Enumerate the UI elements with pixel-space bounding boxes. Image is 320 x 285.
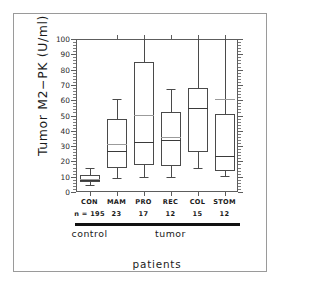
y-axis-minor-tick xyxy=(73,168,76,169)
y-axis-minor-tick xyxy=(73,63,76,64)
y-axis-minor-tick xyxy=(73,73,76,74)
y-axis-minor-tick-right xyxy=(238,174,241,175)
y-axis-minor-tick xyxy=(73,97,76,98)
y-axis-minor-tick xyxy=(73,42,76,43)
y-axis-minor-tick-right xyxy=(238,143,241,144)
x-axis-label-mam: MAM xyxy=(107,198,126,206)
y-axis-tick xyxy=(71,70,76,71)
y-axis-minor-tick xyxy=(73,186,76,187)
y-axis-minor-tick xyxy=(73,51,76,52)
y-axis-tick xyxy=(71,161,76,162)
mean-line xyxy=(215,99,235,100)
y-axis-tick-label: 60 xyxy=(61,96,70,105)
lower-whisker-cap xyxy=(139,177,148,178)
y-axis-minor-tick-right xyxy=(238,171,241,172)
y-axis-minor-tick-right xyxy=(238,82,241,83)
y-axis-minor-tick xyxy=(73,122,76,123)
y-axis-minor-tick-right xyxy=(238,168,241,169)
y-axis-minor-tick-right xyxy=(238,48,241,49)
y-axis-minor-tick-right xyxy=(238,51,241,52)
y-axis-minor-tick xyxy=(73,128,76,129)
y-axis-minor-tick xyxy=(73,143,76,144)
y-axis-minor-tick xyxy=(73,149,76,150)
y-axis-minor-tick xyxy=(73,140,76,141)
sample-size-con: n = 195 xyxy=(74,210,105,218)
y-axis-minor-tick xyxy=(73,45,76,46)
y-axis-minor-tick xyxy=(73,88,76,89)
mean-line xyxy=(134,115,154,116)
y-axis-tick-right xyxy=(238,161,243,162)
x-axis-label-stom: STOM xyxy=(213,198,236,206)
upper-whisker-cap xyxy=(112,99,121,100)
box-plot-mam xyxy=(107,39,127,192)
y-axis-tick xyxy=(71,85,76,86)
y-axis-minor-tick-right xyxy=(238,186,241,187)
y-axis-tick-label: 20 xyxy=(61,157,70,166)
y-axis-minor-tick-right xyxy=(238,119,241,120)
y-axis-tick-right xyxy=(238,146,243,147)
y-axis-minor-tick-right xyxy=(238,125,241,126)
lower-whisker xyxy=(198,152,199,168)
y-axis-minor-tick xyxy=(73,94,76,95)
y-axis-minor-tick xyxy=(73,164,76,165)
y-axis-tick xyxy=(71,131,76,132)
y-axis-tick-label: 70 xyxy=(61,80,70,89)
y-axis-minor-tick-right xyxy=(238,158,241,159)
y-axis-minor-tick xyxy=(73,171,76,172)
upper-whisker xyxy=(144,39,145,62)
y-axis-minor-tick-right xyxy=(238,73,241,74)
median-line xyxy=(215,156,235,157)
x-axis-label-pro: PRO xyxy=(135,198,151,206)
median-line xyxy=(161,140,181,141)
y-axis-minor-tick-right xyxy=(238,128,241,129)
y-axis-minor-tick xyxy=(73,152,76,153)
y-axis-tick-right xyxy=(238,131,243,132)
y-axis-minor-tick-right xyxy=(238,140,241,141)
y-axis-tick xyxy=(71,177,76,178)
x-axis-label-rec: REC xyxy=(163,198,178,206)
box-plot-pro xyxy=(134,39,154,192)
lower-whisker-cap xyxy=(166,177,175,178)
iqr-box xyxy=(107,119,127,168)
y-axis-minor-tick-right xyxy=(238,122,241,123)
lower-whisker-cap xyxy=(112,178,121,179)
upper-whisker-cap xyxy=(166,89,175,90)
group-label-control: control xyxy=(72,228,108,239)
y-axis-minor-tick-right xyxy=(238,103,241,104)
sample-size-col: 15 xyxy=(193,210,203,218)
y-axis-tick xyxy=(71,39,76,40)
x-axis-tick xyxy=(144,192,145,196)
mean-line xyxy=(107,144,127,145)
y-axis-tick-right xyxy=(238,70,243,71)
y-axis-minor-tick-right xyxy=(238,152,241,153)
group-bar-control xyxy=(75,223,105,226)
y-axis-minor-tick-right xyxy=(238,164,241,165)
lower-whisker xyxy=(117,168,118,178)
iqr-box xyxy=(134,62,154,165)
x-axis-tick xyxy=(117,192,118,196)
upper-whisker xyxy=(117,99,118,119)
y-axis-minor-tick-right xyxy=(238,91,241,92)
sample-size-stom: 12 xyxy=(220,210,230,218)
y-axis-minor-tick-right xyxy=(238,134,241,135)
y-axis-minor-tick xyxy=(73,60,76,61)
box-plot-con xyxy=(80,39,100,192)
y-axis-tick-right xyxy=(238,100,243,101)
y-axis-minor-tick xyxy=(73,109,76,110)
y-axis-minor-tick xyxy=(73,91,76,92)
y-axis-tick-label: 50 xyxy=(61,111,70,120)
lower-whisker xyxy=(144,165,145,177)
y-axis-tick-right xyxy=(238,54,243,55)
y-axis-minor-tick xyxy=(73,106,76,107)
x-axis-label-col: COL xyxy=(190,198,206,206)
upper-whisker xyxy=(90,168,91,175)
y-axis-minor-tick-right xyxy=(238,42,241,43)
y-axis-tick-label: 90 xyxy=(61,50,70,59)
y-axis-tick-right xyxy=(238,39,243,40)
x-axis-tick xyxy=(90,192,91,196)
y-axis-minor-tick xyxy=(73,189,76,190)
upper-whisker xyxy=(171,89,172,111)
iqr-box xyxy=(188,88,208,152)
x-axis-tick xyxy=(225,192,226,196)
y-axis-minor-tick-right xyxy=(238,106,241,107)
